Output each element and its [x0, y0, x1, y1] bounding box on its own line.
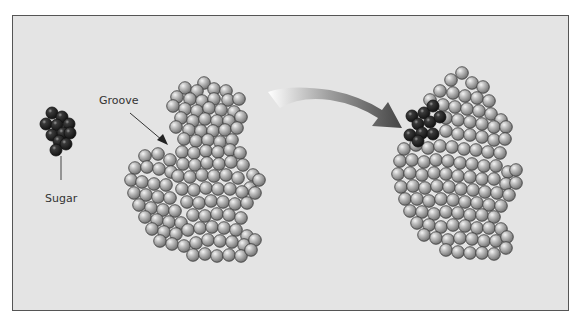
atom-sphere: [214, 235, 227, 248]
atom-sphere: [464, 116, 477, 129]
atom-sphere: [196, 169, 209, 182]
atom-sphere: [169, 205, 182, 218]
atom-sphere: [445, 74, 458, 87]
atom-sphere: [491, 187, 504, 200]
atom-sphere: [431, 180, 444, 193]
atom-sphere: [40, 118, 52, 130]
atom-sphere: [235, 212, 248, 225]
atom-sphere: [141, 161, 154, 174]
atom-sphere: [241, 197, 254, 210]
atom-sphere: [427, 100, 439, 112]
binding-curved-arrow: [268, 87, 402, 128]
atom-sphere: [398, 143, 411, 156]
atom-sphere: [233, 93, 246, 106]
sugar-molecule: [40, 107, 76, 156]
atom-sphere: [190, 237, 203, 250]
atom-sphere: [164, 154, 177, 167]
atom-sphere: [139, 150, 152, 163]
atom-sphere: [464, 247, 477, 260]
atom-sphere: [218, 222, 231, 235]
atom-sphere: [454, 157, 467, 170]
atom-sphere: [416, 169, 429, 182]
atom-sphere: [177, 158, 190, 171]
protein-without-sugar: [125, 77, 266, 263]
atom-sphere: [153, 163, 166, 176]
atom-sphere: [411, 193, 424, 206]
atom-sphere: [200, 145, 213, 158]
atom-sphere: [199, 210, 212, 223]
atom-sphere: [434, 140, 447, 153]
atom-sphere: [148, 178, 161, 191]
atom-sphere: [152, 148, 165, 161]
atom-sphere: [182, 224, 195, 237]
atom-sphere: [213, 158, 226, 171]
atom-sphere: [200, 182, 213, 195]
atom-sphere: [476, 131, 489, 144]
atom-sphere: [181, 196, 194, 209]
atom-sphere: [230, 224, 243, 237]
atom-sphere: [64, 127, 76, 139]
atom-sphere: [478, 160, 491, 173]
atom-sphere: [229, 198, 242, 211]
atom-sphere: [146, 223, 159, 236]
atom-sphere: [440, 168, 453, 181]
atom-sphere: [473, 105, 486, 118]
atom-sphere: [128, 187, 141, 200]
atom-sphere: [164, 192, 177, 205]
atom-sphere: [136, 176, 149, 189]
atom-sphere: [471, 92, 484, 105]
atom-sphere: [446, 141, 459, 154]
atom-sphere: [482, 146, 495, 159]
atom-sphere: [467, 184, 480, 197]
atom-sphere: [455, 183, 468, 196]
atom-sphere: [430, 232, 443, 245]
atom-sphere: [510, 164, 523, 177]
atom-sphere: [461, 103, 474, 116]
atom-sphere: [190, 135, 203, 148]
atom-sphere: [133, 199, 146, 212]
atom-sphere: [178, 133, 191, 146]
atom-sphere: [464, 171, 477, 184]
atom-sphere: [199, 248, 212, 261]
atom-sphere: [456, 67, 469, 80]
atom-sphere: [452, 114, 465, 127]
atom-sphere: [404, 167, 417, 180]
atom-sphere: [187, 209, 200, 222]
atom-sphere: [232, 172, 245, 185]
atom-sphere: [226, 236, 239, 249]
atom-sphere: [176, 146, 189, 159]
atom-sphere: [129, 162, 142, 175]
atom-sphere: [476, 209, 489, 222]
atom-sphere: [212, 146, 225, 159]
atom-sphere: [470, 144, 483, 157]
atom-sphere: [152, 191, 165, 204]
atom-sphere: [167, 100, 180, 113]
atom-sphere: [449, 101, 462, 114]
protein-with-bound-sugar: [392, 67, 523, 261]
sugar-label: Sugar: [45, 192, 77, 205]
atom-sphere: [488, 248, 501, 261]
atom-sphere: [452, 128, 465, 141]
atom-sphere: [483, 95, 496, 108]
groove-label: Groove: [99, 94, 139, 107]
atom-sphere: [166, 238, 179, 251]
atom-sphere: [503, 189, 516, 202]
atom-sphere: [125, 174, 138, 187]
atom-sphere: [464, 129, 477, 142]
atom-sphere: [479, 186, 492, 199]
atom-sphere: [434, 111, 446, 123]
atom-sphere: [495, 200, 508, 213]
atom-sphere: [212, 183, 225, 196]
atom-sphere: [176, 183, 189, 196]
atom-sphere: [499, 133, 512, 146]
atom-sphere: [160, 179, 173, 192]
atom-sphere: [211, 250, 224, 263]
atom-sphere: [404, 205, 417, 218]
atom-sphere: [188, 184, 201, 197]
atom-sphere: [488, 121, 501, 134]
atom-sphere: [430, 154, 443, 167]
atom-sphere: [447, 87, 460, 100]
groove-pointer-arrow: [130, 113, 168, 145]
diagram-canvas: [0, 0, 584, 327]
atom-sphere: [202, 134, 215, 147]
